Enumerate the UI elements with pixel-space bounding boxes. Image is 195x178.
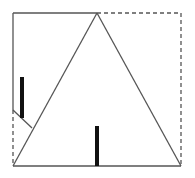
geometry-diagram xyxy=(0,0,195,178)
triangle-left-side xyxy=(13,13,97,166)
triangle-right-side xyxy=(97,13,181,166)
